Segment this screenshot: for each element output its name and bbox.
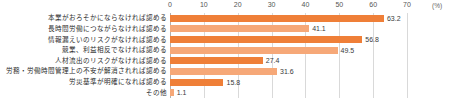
category-label: 人材流出のリスクがなければ認める <box>55 57 167 65</box>
bar-row: 49.5 <box>170 47 407 54</box>
bar-row: 31.6 <box>170 68 407 75</box>
bar <box>170 57 263 64</box>
bar <box>170 47 338 54</box>
axis-unit-label: (%) <box>432 1 442 10</box>
bar <box>170 36 362 43</box>
x-tick-label-20: 20 <box>234 0 242 9</box>
bar-value-label: 56.8 <box>365 35 379 44</box>
category-label: 競業、利益相反でなければ認める <box>62 46 167 54</box>
bar <box>170 79 223 86</box>
bar <box>170 15 384 22</box>
gridline-70 <box>407 13 408 98</box>
bar-value-label: 1.1 <box>177 88 187 97</box>
bar-row: 63.2 <box>170 15 407 22</box>
category-label: 情報漏えいのリスクがなければ認める <box>48 36 167 44</box>
bar-row: 41.1 <box>170 25 407 32</box>
bar-value-label: 15.8 <box>226 78 240 87</box>
category-label: 本業がおろそかにならなければ認める <box>48 14 167 22</box>
bar-row: 15.8 <box>170 79 407 86</box>
bar-row: 56.8 <box>170 36 407 43</box>
x-tick-label-10: 10 <box>200 0 208 9</box>
bar-value-label: 27.4 <box>266 56 280 65</box>
horizontal-bar-chart: (%) 010203040506070 本業がおろそかにならなければ認める長時間… <box>0 0 452 103</box>
plot-area: 63.241.156.849.527.431.615.81.1 <box>170 13 407 98</box>
x-tick-label-60: 60 <box>369 0 377 9</box>
x-tick-label-30: 30 <box>268 0 276 9</box>
bar-row: 1.1 <box>170 89 407 96</box>
x-tick-label-0: 0 <box>168 0 172 9</box>
x-tick-label-40: 40 <box>302 0 310 9</box>
bar-value-label: 63.2 <box>387 14 401 23</box>
category-label: 労務・労働時間管理上の不安が解消されれば認める <box>6 67 167 75</box>
bar-value-label: 41.1 <box>312 24 326 33</box>
bar <box>170 68 277 75</box>
category-label: 長時間労働につながらなければ認める <box>48 25 167 33</box>
x-tick-label-70: 70 <box>403 0 411 9</box>
bar-value-label: 49.5 <box>341 46 355 55</box>
category-label: 労災基準が明確になれば認める <box>69 78 167 86</box>
x-tick-label-50: 50 <box>335 0 343 9</box>
category-label: その他 <box>146 89 167 97</box>
bar <box>170 89 174 96</box>
bar-row: 27.4 <box>170 57 407 64</box>
bar <box>170 25 309 32</box>
bar-value-label: 31.6 <box>280 67 294 76</box>
